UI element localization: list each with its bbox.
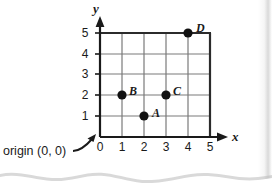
- point-label-B: B: [129, 84, 137, 99]
- x-tick-label-1: 1: [114, 140, 130, 154]
- data-point-D: [183, 28, 192, 37]
- x-axis-label: x: [232, 129, 239, 145]
- point-label-A: A: [152, 106, 160, 121]
- y-tick-label-3: 3: [78, 67, 92, 81]
- coordinate-plane-graph: [88, 14, 238, 149]
- y-tick-label-2: 2: [78, 88, 92, 102]
- figure-page: y x 0 1 2 3 4 5 5 4 3 2 1 A B C D origin…: [0, 0, 272, 184]
- grid-outer-border: [99, 33, 211, 137]
- x-tick-label-3: 3: [158, 140, 174, 154]
- data-point-B: [117, 90, 126, 99]
- y-tick-label-5: 5: [78, 26, 92, 40]
- y-axis-label: y: [93, 1, 99, 17]
- page-right-edge-shadow: [258, 0, 272, 184]
- y-tick-label-4: 4: [78, 47, 92, 61]
- point-label-C: C: [173, 84, 181, 99]
- x-tick-label-2: 2: [136, 140, 152, 154]
- coordinate-plane-svg: [88, 14, 238, 149]
- page-bottom-torn-edge: [0, 162, 272, 184]
- y-axis: [96, 16, 105, 137]
- x-tick-label-4: 4: [180, 140, 196, 154]
- origin-arrow-icon: [71, 131, 101, 155]
- y-tick-label-1: 1: [78, 109, 92, 123]
- x-tick-label-5: 5: [202, 140, 218, 154]
- origin-annotation-label: origin (0, 0): [3, 144, 66, 158]
- data-point-A: [139, 111, 148, 120]
- data-point-C: [161, 90, 170, 99]
- point-label-D: D: [196, 21, 205, 36]
